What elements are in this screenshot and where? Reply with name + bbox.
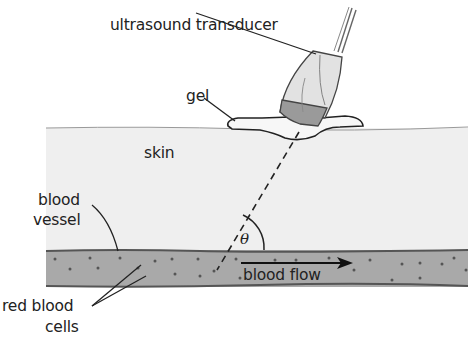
blood-flow-label: blood flow bbox=[243, 266, 321, 284]
ultrasound-transducer bbox=[280, 7, 356, 126]
doppler-diagram bbox=[0, 0, 475, 342]
skin-label: skin bbox=[144, 144, 174, 162]
skin-layer bbox=[46, 128, 468, 250]
vessel-label-line2: vessel bbox=[33, 211, 81, 229]
angle-theta-label: θ bbox=[240, 230, 249, 248]
cells-label-line2: cells bbox=[45, 318, 79, 336]
transducer-label: ultrasound transducer bbox=[110, 16, 278, 34]
cells-label-line1: red blood bbox=[2, 297, 74, 315]
vessel-label-line1: blood bbox=[38, 191, 80, 209]
gel-label: gel bbox=[186, 87, 209, 105]
